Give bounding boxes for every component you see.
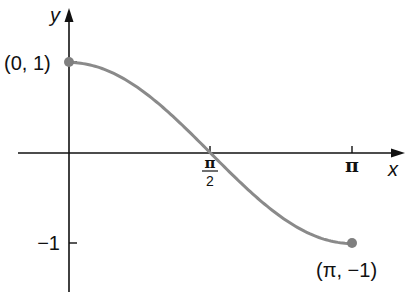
- neg-one-label: −1: [37, 232, 60, 254]
- y-axis-label: y: [48, 4, 61, 26]
- pi-label: π: [345, 154, 359, 176]
- x-axis-arrow-icon: [391, 149, 405, 158]
- y-axis-arrow-icon: [65, 8, 74, 22]
- pi-half-denominator: 2: [206, 173, 214, 189]
- x-axis-label: x: [387, 158, 399, 180]
- plot-canvas: y x π 2 π −1 (0, 1) (π, −1): [0, 0, 416, 303]
- start-point-label: (0, 1): [4, 52, 51, 74]
- cosine-graph: y x π 2 π −1 (0, 1) (π, −1): [0, 0, 416, 303]
- start-point-marker: [64, 57, 74, 67]
- end-point-marker: [347, 238, 357, 248]
- pi-half-numerator: π: [205, 154, 216, 172]
- end-point-label: (π, −1): [316, 259, 377, 281]
